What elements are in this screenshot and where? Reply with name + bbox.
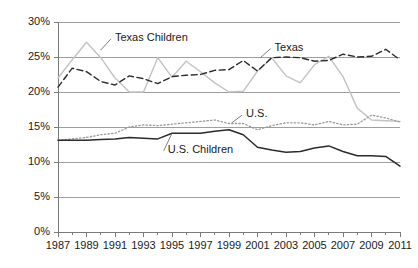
y-axis-tick-label-25%: 25% [0,50,50,62]
leader-line-u-s [232,115,242,123]
y-axis-tick-label-30%: 30% [0,15,50,27]
chart-canvas [0,0,418,268]
y-axis-tick-label-10%: 10% [0,155,50,167]
series-line-u-s [58,115,400,140]
line-chart: Texas ChildrenTexasU.S.U.S. Children0%5%… [0,0,418,268]
y-axis-tick-label-15%: 15% [0,120,50,132]
series-line-texas [58,49,400,87]
y-axis-tick-label-5%: 5% [0,190,50,202]
leader-line-texas-children [101,39,111,50]
series-line-texas-children [58,42,400,121]
y-axis-tick-label-20%: 20% [0,85,50,97]
leader-line-texas [260,49,270,58]
y-axis-tick-label-0%: 0% [0,225,50,237]
x-axis-tick-label-2011: 2011 [380,239,418,251]
series-label-texas: Texas [275,41,304,53]
series-label-texas-children: Texas Children [115,31,188,43]
series-label-u-s: U.S. [246,107,267,119]
series-label-u-s-children: U.S. Children [168,143,233,155]
